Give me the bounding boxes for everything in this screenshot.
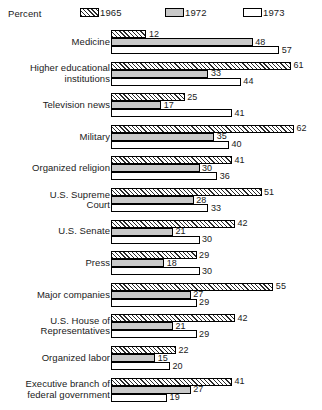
bar-value-label: 55	[276, 281, 286, 291]
bar-1965	[111, 62, 291, 70]
bar-value-label: 40	[232, 139, 242, 149]
bar-value-label: 22	[178, 345, 188, 355]
bar-value-label: 36	[220, 171, 230, 181]
bar-value-label: 17	[164, 100, 174, 110]
bar-1965	[111, 125, 294, 133]
bar-value-label: 30	[202, 266, 212, 276]
bar-1972	[111, 354, 155, 362]
bar-1972	[111, 259, 164, 267]
bar-1973	[111, 299, 197, 307]
bar-value-label: 28	[196, 195, 206, 205]
category-label: Organized religion	[4, 163, 110, 174]
bar-1973	[111, 204, 208, 212]
bar-value-label: 41	[235, 376, 245, 386]
bar-group: Major companies552729	[0, 283, 322, 307]
category-label: Executive branch of federal government	[4, 379, 110, 400]
bar-1965	[111, 30, 146, 38]
bar-1965	[111, 188, 262, 196]
bar-group: U.S. Supreme Court512833	[0, 188, 322, 212]
bar-1973	[111, 236, 200, 244]
bar-value-label: 48	[255, 37, 265, 47]
bar-1972	[111, 322, 173, 330]
bar-value-label: 27	[193, 384, 203, 394]
bar-value-label: 12	[149, 29, 159, 39]
bar-value-label: 18	[167, 258, 177, 268]
plot-area: Medicine124857Higher educational institu…	[0, 28, 322, 410]
bar-1973	[111, 172, 217, 180]
category-label: Press	[4, 258, 110, 269]
legend-swatch-white-icon	[243, 8, 262, 17]
bar-value-label: 30	[202, 234, 212, 244]
bar-value-label: 42	[237, 218, 247, 228]
bar-group: Higher educational institutions613344	[0, 62, 322, 86]
bar-1973	[111, 141, 229, 149]
legend-label-1972: 1972	[185, 7, 207, 18]
bar-value-label: 30	[202, 163, 212, 173]
bar-group: U.S. Senate422130	[0, 220, 322, 244]
bar-1973	[111, 362, 170, 370]
bar-value-label: 25	[187, 92, 197, 102]
bar-1973	[111, 109, 232, 117]
category-label: U.S. Senate	[4, 226, 110, 237]
bar-1972	[111, 133, 214, 141]
legend-swatch-hatched-icon	[80, 8, 99, 17]
bar-1965	[111, 314, 235, 322]
bar-value-label: 33	[211, 68, 221, 78]
legend-label-1973: 1973	[263, 7, 285, 18]
bar-value-label: 21	[175, 321, 185, 331]
bar-value-label: 21	[175, 226, 185, 236]
category-label: Military	[4, 132, 110, 143]
category-label: Television news	[4, 100, 110, 111]
bar-value-label: 33	[211, 203, 221, 213]
bar-1973	[111, 78, 241, 86]
legend-entry-1965: 1965	[80, 7, 122, 18]
bar-value-label: 41	[235, 155, 245, 165]
legend-entry-1973: 1973	[243, 7, 285, 18]
bar-value-label: 29	[199, 329, 209, 339]
bar-value-label: 61	[294, 60, 304, 70]
bar-1973	[111, 46, 279, 54]
bar-1965	[111, 283, 273, 291]
category-label: U.S. Supreme Court	[4, 190, 110, 211]
bar-1965	[111, 378, 232, 386]
category-label: Major companies	[4, 290, 110, 301]
bar-1972	[111, 196, 194, 204]
bar-group: Military623540	[0, 125, 322, 149]
bar-value-label: 19	[170, 392, 180, 402]
category-label: U.S. House of Representatives	[4, 316, 110, 337]
bar-1965	[111, 220, 235, 228]
bar-group: Organized labor221520	[0, 346, 322, 370]
bar-1973	[111, 394, 167, 402]
category-label: Higher educational institutions	[4, 63, 110, 84]
bar-group: Medicine124857	[0, 30, 322, 54]
bar-1965	[111, 156, 232, 164]
bar-1972	[111, 291, 191, 299]
category-label: Organized labor	[4, 353, 110, 364]
legend-swatch-gray-icon	[165, 8, 184, 17]
chart-legend: Percent 1965 1972 1973	[0, 6, 322, 24]
bar-value-label: 57	[282, 45, 292, 55]
bar-1973	[111, 267, 200, 275]
bar-1972	[111, 228, 173, 236]
bar-group: Press291830	[0, 251, 322, 275]
category-label: Medicine	[4, 37, 110, 48]
bar-group: Television news251741	[0, 93, 322, 117]
legend-label-1965: 1965	[100, 7, 122, 18]
bar-group: Executive branch of federal government41…	[0, 378, 322, 402]
bar-value-label: 62	[297, 123, 307, 133]
bar-1973	[111, 330, 197, 338]
bar-value-label: 15	[158, 353, 168, 363]
bar-value-label: 35	[217, 131, 227, 141]
bar-value-label: 44	[243, 76, 253, 86]
bar-value-label: 41	[235, 108, 245, 118]
bar-value-label: 20	[173, 361, 183, 371]
bar-value-label: 29	[199, 297, 209, 307]
bar-value-label: 51	[264, 187, 274, 197]
bar-value-label: 42	[237, 313, 247, 323]
bar-1972	[111, 101, 161, 109]
bar-group: Organized religion413036	[0, 156, 322, 180]
axis-unit-label: Percent	[8, 8, 41, 19]
legend-entry-1972: 1972	[165, 7, 207, 18]
bar-1972	[111, 164, 200, 172]
grouped-bar-chart: Percent 1965 1972 1973 Medicine124857Hig…	[0, 0, 322, 410]
